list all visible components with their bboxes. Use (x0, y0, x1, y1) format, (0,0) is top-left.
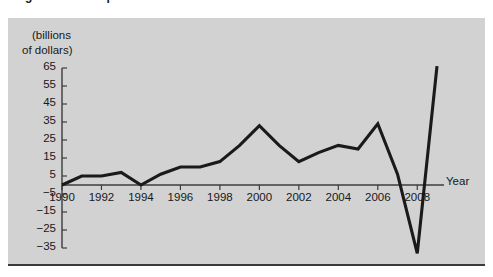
x-axis-tick-label: 1998 (200, 191, 240, 203)
y-axis-tick-label: 15 (22, 150, 56, 162)
y-axis-tick-label: 45 (22, 96, 56, 108)
x-axis-tick-label: 1992 (81, 191, 121, 203)
x-axis-title: Year (446, 175, 469, 187)
y-axis-tick-label: 65 (22, 60, 56, 72)
x-axis-tick-label: 1996 (160, 191, 200, 203)
y-axis-tick-label: −25 (22, 222, 56, 234)
chart-panel: (billions of dollars) 6555453525155−5−15… (8, 18, 485, 266)
y-axis-tick-label: 35 (22, 114, 56, 126)
x-axis-tick-label: 2008 (397, 191, 437, 203)
cut-off-title-strip: Figure 3. Net capital flows (0, 0, 493, 16)
figure-title: Figure 3. Net capital flows (14, 0, 167, 3)
x-axis-tick-label: 1994 (121, 191, 161, 203)
x-axis-tick-label: 2002 (279, 191, 319, 203)
x-axis-tick-label: 2000 (239, 191, 279, 203)
x-axis-tick-label: 2004 (318, 191, 358, 203)
x-axis-tick-label: 2006 (358, 191, 398, 203)
line-chart-plot (8, 18, 485, 266)
y-axis-tick-label: 25 (22, 132, 56, 144)
y-axis-tick-label: 55 (22, 78, 56, 90)
x-axis-tick-label: 1990 (42, 191, 82, 203)
y-axis-tick-label: −15 (22, 204, 56, 216)
y-axis-tick-label: −35 (22, 240, 56, 252)
y-axis-tick-label: 5 (22, 168, 56, 180)
